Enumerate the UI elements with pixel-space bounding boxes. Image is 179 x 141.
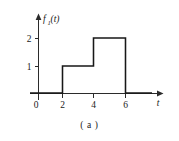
x-tick-label-2: 2	[60, 100, 65, 110]
figure-container: 2 1 0 2 4 6 t f 1 (t) ( a )	[0, 0, 179, 141]
x-tick-label-0: 0	[34, 100, 39, 110]
y-axis-label-argument: (t)	[51, 14, 60, 25]
y-tick-label-1: 1	[27, 62, 32, 72]
figure-caption: ( a )	[0, 120, 179, 130]
y-tick-label-2: 2	[27, 34, 32, 44]
y-axis-label-base: f	[43, 14, 47, 24]
x-tick-label-4: 4	[91, 100, 96, 110]
x-axis-label: t	[157, 98, 160, 108]
x-axis-arrowhead	[157, 91, 164, 97]
y-axis-arrowhead	[36, 14, 42, 21]
signal-waveform	[30, 38, 152, 93]
x-tick-label-6: 6	[123, 100, 128, 110]
